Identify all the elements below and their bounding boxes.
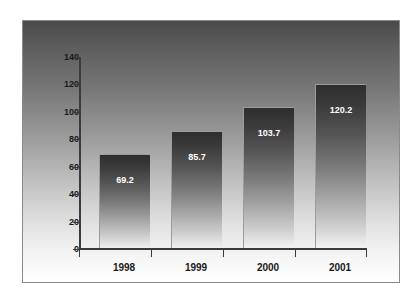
y-tick-120: 120 [23, 80, 79, 89]
bar-1999[interactable]: 85.7 [171, 131, 222, 250]
x-tick-mark-3 [295, 250, 296, 257]
bar-value-1998: 69.2 [100, 175, 150, 185]
y-tick-0: 0 [23, 245, 79, 254]
y-tick-80: 80 [23, 135, 79, 144]
bar-value-2001: 120.2 [316, 105, 366, 115]
bar-1998[interactable]: 69.2 [99, 154, 150, 250]
y-tick-140: 140 [23, 53, 79, 62]
y-tick-mark-20 [73, 222, 79, 223]
y-tick-mark-140 [73, 57, 79, 58]
y-tick-100: 100 [23, 108, 79, 117]
chart-frame: 140 120 100 80 60 40 [22, 20, 400, 283]
y-tick-40: 40 [23, 190, 79, 199]
bar-value-1999: 85.7 [172, 152, 222, 162]
x-cat-label-2000: 2000 [238, 262, 298, 273]
x-tick-mark-2 [223, 250, 224, 257]
bar-value-2000: 103.7 [244, 128, 294, 138]
x-tick-mark-0 [79, 250, 80, 257]
bar-2001[interactable]: 120.2 [315, 84, 366, 250]
y-tick-60: 60 [23, 163, 79, 172]
x-cat-label-2001: 2001 [310, 262, 370, 273]
y-tick-mark-100 [73, 112, 79, 113]
x-cat-label-1998: 1998 [94, 262, 154, 273]
y-tick-20: 20 [23, 218, 79, 227]
x-tick-mark-1 [151, 250, 152, 257]
y-tick-mark-40 [73, 194, 79, 195]
x-cat-label-1999: 1999 [166, 262, 226, 273]
y-axis-line [79, 57, 81, 250]
x-tick-mark-4 [366, 250, 367, 257]
y-tick-mark-80 [73, 139, 79, 140]
plot-area: 140 120 100 80 60 40 [23, 21, 399, 282]
y-tick-mark-120 [73, 84, 79, 85]
y-tick-mark-60 [73, 167, 79, 168]
figure-canvas: 140 120 100 80 60 40 [0, 0, 415, 297]
bar-2000[interactable]: 103.7 [243, 107, 294, 250]
